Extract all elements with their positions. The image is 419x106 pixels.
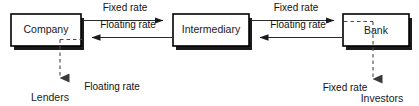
investors-label: Investors bbox=[361, 92, 404, 104]
diagram-canvas: Company Intermediary Bank Fixed rate Flo… bbox=[0, 0, 419, 106]
node-bank: Bank bbox=[343, 14, 412, 50]
intermediary-label: Intermediary bbox=[182, 23, 241, 35]
company-label: Company bbox=[24, 23, 70, 35]
edge-label-floating-rate-company-lenders: Floating rate bbox=[84, 81, 140, 92]
edge-label-fixed-rate-intermediary-bank: Fixed rate bbox=[274, 2, 319, 13]
edge-label-floating-rate-intermediary-company: Floating rate bbox=[100, 19, 156, 30]
edge-intermediary-to-company-floating: Floating rate bbox=[92, 19, 172, 38]
edge-label-fixed-rate-company-intermediary: Fixed rate bbox=[103, 2, 148, 13]
edge-label-floating-rate-bank-intermediary: Floating rate bbox=[270, 19, 326, 30]
node-intermediary: Intermediary bbox=[173, 14, 252, 50]
node-company: Company bbox=[11, 14, 84, 50]
lenders-label: Lenders bbox=[31, 91, 69, 103]
edge-intermediary-to-bank-fixed: Fixed rate bbox=[251, 2, 334, 21]
edge-company-to-intermediary-fixed: Fixed rate bbox=[83, 2, 163, 21]
bank-label: Bank bbox=[364, 24, 389, 36]
swap-flow-diagram: Company Intermediary Bank Fixed rate Flo… bbox=[0, 0, 419, 106]
edge-bank-to-intermediary-floating: Floating rate bbox=[260, 19, 342, 38]
